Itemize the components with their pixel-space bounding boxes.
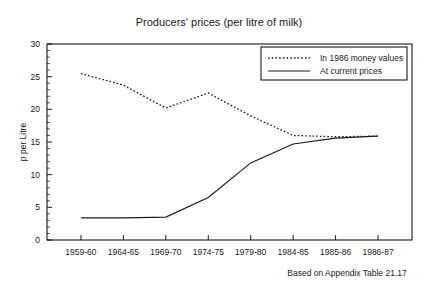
producers-prices-line-chart: Producers' prices (per litre of milk) 05… (0, 0, 439, 297)
x-axis-category-label: 1974-75 (193, 247, 224, 257)
x-axis-category-label: 1959-60 (65, 247, 96, 257)
legend-label-at-current-prices: At current prices (320, 66, 382, 76)
y-axis-tick-label: 10 (31, 170, 41, 180)
y-axis-tick-label: 30 (31, 39, 41, 49)
x-axis-category-label: 1984-85 (278, 247, 309, 257)
chart-container: Producers' prices (per litre of milk) 05… (0, 0, 439, 297)
chart-title: Producers' prices (per litre of milk) (136, 16, 303, 28)
x-axis-category-label: 1986-87 (362, 247, 393, 257)
x-axis-category-label: 1985-86 (320, 247, 351, 257)
x-axis-category-label: 1964-65 (108, 247, 139, 257)
y-axis-tick-label: 20 (31, 104, 41, 114)
chart-caption: Based on Appendix Table 21.17 (287, 268, 407, 278)
y-axis-tick-label: 0 (35, 235, 40, 245)
y-axis-tick-label: 5 (35, 202, 40, 212)
y-axis-tick-label: 25 (31, 72, 41, 82)
legend-label-in-1986-money-values: In 1986 money values (320, 53, 403, 63)
y-axis-label: p per Litre (18, 123, 28, 162)
y-axis-tick-label: 15 (31, 137, 41, 147)
chart-legend: In 1986 money values At current prices (261, 47, 407, 80)
x-axis-category-label: 1979-80 (235, 247, 266, 257)
x-axis-category-label: 1969-70 (150, 247, 181, 257)
